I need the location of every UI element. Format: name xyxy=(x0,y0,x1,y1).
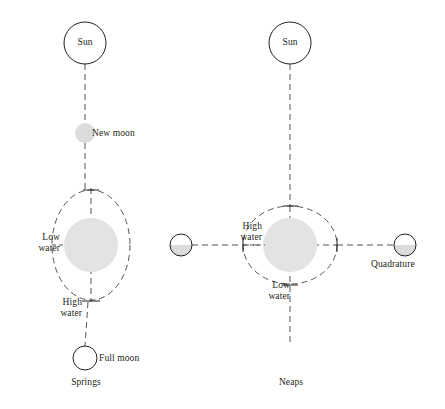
high-water-line1-neaps: High xyxy=(210,221,262,232)
sun-label-neaps: Sun xyxy=(270,37,310,47)
sun-label-springs: Sun xyxy=(65,37,105,47)
low-water-line2-neaps: water xyxy=(238,291,290,302)
axis-line-springs-lower xyxy=(85,302,88,346)
earth-neaps xyxy=(263,218,317,272)
low-water-line1-springs: Low xyxy=(8,232,60,243)
caption-neaps: Neaps xyxy=(260,377,322,388)
quadrature-moon-right xyxy=(392,234,418,259)
tide-diagram-figure: Sun New moon Low water High water Full m… xyxy=(0,0,445,409)
new-moon-label: New moon xyxy=(92,128,135,139)
tide-diagram-canvas xyxy=(0,0,445,409)
earth-springs xyxy=(64,218,118,272)
caption-springs: Springs xyxy=(55,377,117,388)
low-water-label-springs: Low water xyxy=(8,232,60,253)
full-moon-label: Full moon xyxy=(99,353,139,364)
high-water-label-neaps: High water xyxy=(210,221,262,242)
high-water-line1-springs: High xyxy=(30,297,82,308)
high-water-line2-springs: water xyxy=(30,308,82,319)
low-water-line2-springs: water xyxy=(8,243,60,254)
high-water-line2-neaps: water xyxy=(210,232,262,243)
low-water-label-neaps: Low water xyxy=(238,280,290,301)
full-moon-springs xyxy=(73,346,97,370)
high-water-label-springs: High water xyxy=(30,297,82,318)
low-water-line1-neaps: Low xyxy=(238,280,290,291)
quadrature-label: Quadrature xyxy=(371,259,415,270)
quadrature-moon-left xyxy=(168,234,194,259)
